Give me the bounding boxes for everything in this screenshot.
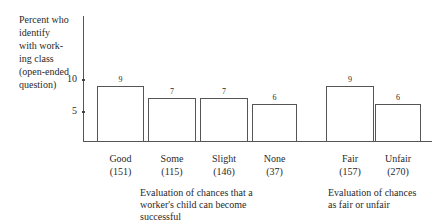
group-label-line: successful xyxy=(140,211,253,223)
group-label-chances-success: Evaluation of chances that a worker's ch… xyxy=(140,187,253,223)
category-name: None xyxy=(245,152,305,165)
category-count: (115) xyxy=(142,165,202,178)
category-name: Some xyxy=(142,152,202,165)
bar-value-label: 7 xyxy=(152,87,192,96)
y-axis-title-line: Percent who xyxy=(19,13,83,26)
bar-some xyxy=(148,98,196,141)
category-label-none: None(37) xyxy=(245,152,305,178)
category-name: Unfair xyxy=(368,152,428,165)
group-label-line: Evaluation of chances xyxy=(328,187,416,199)
category-count: (37) xyxy=(245,165,305,178)
category-count: (270) xyxy=(368,165,428,178)
bar-value-label: 9 xyxy=(101,75,141,84)
y-axis-title-line: with work- xyxy=(19,39,83,52)
category-label-some: Some(115) xyxy=(142,152,202,178)
bar-unfair xyxy=(375,104,421,141)
group-label-line: worker's child can become xyxy=(140,199,253,211)
group-label-line: Evaluation of chances that a xyxy=(140,187,253,199)
y-axis-title-line: identify xyxy=(19,26,83,39)
bar-good xyxy=(97,86,144,141)
group-label-fair-unfair: Evaluation of chances as fair or unfair xyxy=(328,187,416,211)
group-label-line: as fair or unfair xyxy=(328,199,416,211)
bar-fair xyxy=(326,86,374,141)
bar-value-label: 7 xyxy=(204,87,244,96)
y-tick-5 xyxy=(82,111,85,113)
bar-none xyxy=(252,104,297,141)
bar-slight xyxy=(200,98,248,141)
y-tick-label-10: 10 xyxy=(67,73,77,84)
y-tick-label-5: 5 xyxy=(72,105,77,116)
y-axis-title-line: ing class xyxy=(19,52,83,65)
bar-value-label: 6 xyxy=(255,93,295,102)
category-label-unfair: Unfair(270) xyxy=(368,152,428,178)
bar-value-label: 6 xyxy=(378,93,418,102)
bar-value-label: 9 xyxy=(330,75,370,84)
x-axis-baseline xyxy=(83,141,432,142)
y-tick-10 xyxy=(82,79,85,81)
